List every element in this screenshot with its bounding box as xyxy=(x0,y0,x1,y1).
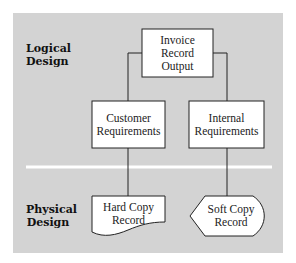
internal-line1: Internal xyxy=(209,112,245,125)
customer-line2: Requirements xyxy=(97,125,161,138)
physical-label-line2: Design xyxy=(26,216,70,229)
internal-line2: Requirements xyxy=(195,125,259,138)
invoice-line3: Output xyxy=(162,60,194,73)
logical-label-line2: Design xyxy=(26,55,66,68)
hardcopy-box-text: Hard Copy Record xyxy=(92,198,165,230)
physical-design-label: Physical Design xyxy=(26,203,70,229)
softcopy-line2: Record xyxy=(214,216,247,229)
hardcopy-line2: Record xyxy=(112,214,145,227)
connector-invoice-internal xyxy=(213,53,227,101)
logical-label-line1: Logical xyxy=(26,42,66,55)
customer-line1: Customer xyxy=(106,112,151,125)
customer-box-text: Customer Requirements xyxy=(92,101,165,148)
invoice-line1: Invoice xyxy=(160,34,194,47)
logical-design-label: Logical Design xyxy=(26,42,66,68)
hardcopy-line1: Hard Copy xyxy=(103,201,154,214)
softcopy-line1: Soft Copy xyxy=(208,203,255,216)
connector-invoice-customer xyxy=(128,53,142,101)
softcopy-box-text: Soft Copy Record xyxy=(200,200,262,232)
invoice-line2: Record xyxy=(161,47,194,60)
physical-label-line1: Physical xyxy=(26,203,70,216)
invoice-box-text: Invoice Record Output xyxy=(142,29,213,77)
internal-box-text: Internal Requirements xyxy=(189,101,264,148)
